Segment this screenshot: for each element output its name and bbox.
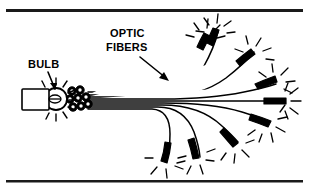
- top-border-rule: [6, 9, 303, 12]
- diagram-canvas: BULB OPTIC FIBERS: [0, 0, 309, 193]
- callout-optic-label-line1: OPTIC: [110, 27, 145, 39]
- callout-optic-label-line2: FIBERS: [106, 41, 148, 53]
- optic-fibers-figure: BULB OPTIC FIBERS: [0, 0, 309, 193]
- bulb-base: [22, 89, 49, 110]
- callout-bulb-label: BULB: [28, 58, 59, 70]
- bottom-border-rule: [6, 180, 303, 183]
